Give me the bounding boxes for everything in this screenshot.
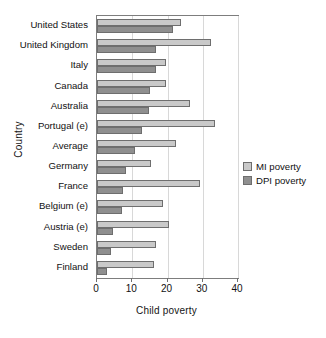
- bar-group: [97, 76, 238, 96]
- category-label: United Kingdom: [20, 40, 88, 50]
- x-tick-label: 40: [224, 283, 250, 294]
- bar: [97, 140, 176, 147]
- legend-item: DPI poverty: [243, 174, 325, 187]
- x-tick-label: 0: [83, 283, 109, 294]
- category-label: Belgium (e): [39, 201, 88, 211]
- x-tick-label: 10: [118, 283, 144, 294]
- bar-group: [97, 157, 238, 177]
- category-label: France: [58, 181, 88, 191]
- x-tick: [131, 278, 132, 282]
- bar: [97, 19, 181, 26]
- category-label: Finland: [57, 262, 88, 272]
- x-tick: [96, 278, 97, 282]
- category-label: Average: [52, 141, 88, 151]
- bar: [97, 261, 154, 268]
- category-label: Sweden: [53, 242, 88, 252]
- x-tick-label: 30: [189, 283, 215, 294]
- category-label: Canada: [54, 81, 88, 91]
- x-tick: [202, 278, 203, 282]
- bar: [97, 160, 151, 167]
- category-labels: United StatesUnited KingdomItalyCanadaAu…: [6, 15, 92, 277]
- bar: [97, 46, 156, 53]
- bar: [97, 167, 126, 174]
- bar: [97, 120, 215, 127]
- bar-group: [97, 238, 238, 258]
- legend-item: MI poverty: [243, 160, 325, 173]
- bar-group: [97, 97, 238, 117]
- chart-legend: MI povertyDPI poverty: [243, 160, 325, 188]
- legend-swatch-icon: [243, 176, 252, 185]
- category-label: Italy: [70, 60, 88, 70]
- bar: [97, 221, 169, 228]
- bar: [97, 80, 166, 87]
- x-tick: [237, 278, 238, 282]
- bar: [97, 39, 211, 46]
- bar: [97, 26, 173, 33]
- bar: [97, 59, 166, 66]
- bar: [97, 241, 156, 248]
- legend-label: MI poverty: [256, 161, 301, 172]
- plot-area: [96, 15, 239, 279]
- bar-group: [97, 137, 238, 157]
- bar: [97, 268, 107, 275]
- gridline: [238, 16, 239, 278]
- bar: [97, 87, 150, 94]
- bar-group: [97, 258, 238, 278]
- category-label: United States: [30, 20, 88, 30]
- bar-group: [97, 218, 238, 238]
- bar: [97, 100, 190, 107]
- bar: [97, 200, 163, 207]
- bar: [97, 107, 149, 114]
- bar: [97, 187, 123, 194]
- bar: [97, 180, 200, 187]
- bar: [97, 248, 111, 255]
- bar-group: [97, 197, 238, 217]
- bar: [97, 66, 156, 73]
- bar: [97, 228, 113, 235]
- category-label: Australia: [51, 101, 88, 111]
- category-label: Austria (e): [44, 222, 88, 232]
- bar-group: [97, 117, 238, 137]
- legend-swatch-icon: [243, 162, 252, 171]
- legend-label: DPI poverty: [256, 175, 306, 186]
- bar-group: [97, 16, 238, 36]
- x-tick-label: 20: [154, 283, 180, 294]
- category-label: Germany: [49, 161, 88, 171]
- bar-group: [97, 56, 238, 76]
- bar: [97, 127, 142, 134]
- x-tick: [167, 278, 168, 282]
- x-axis-title: Child poverty: [96, 305, 237, 316]
- bar: [97, 147, 135, 154]
- bar: [97, 207, 122, 214]
- bar-group: [97, 177, 238, 197]
- bar-group: [97, 36, 238, 56]
- x-axis-tick-labels: 010203040: [0, 283, 326, 297]
- child-poverty-bar-chart: Country United StatesUnited KingdomItaly…: [0, 0, 326, 338]
- category-label: Portugal (e): [38, 121, 88, 131]
